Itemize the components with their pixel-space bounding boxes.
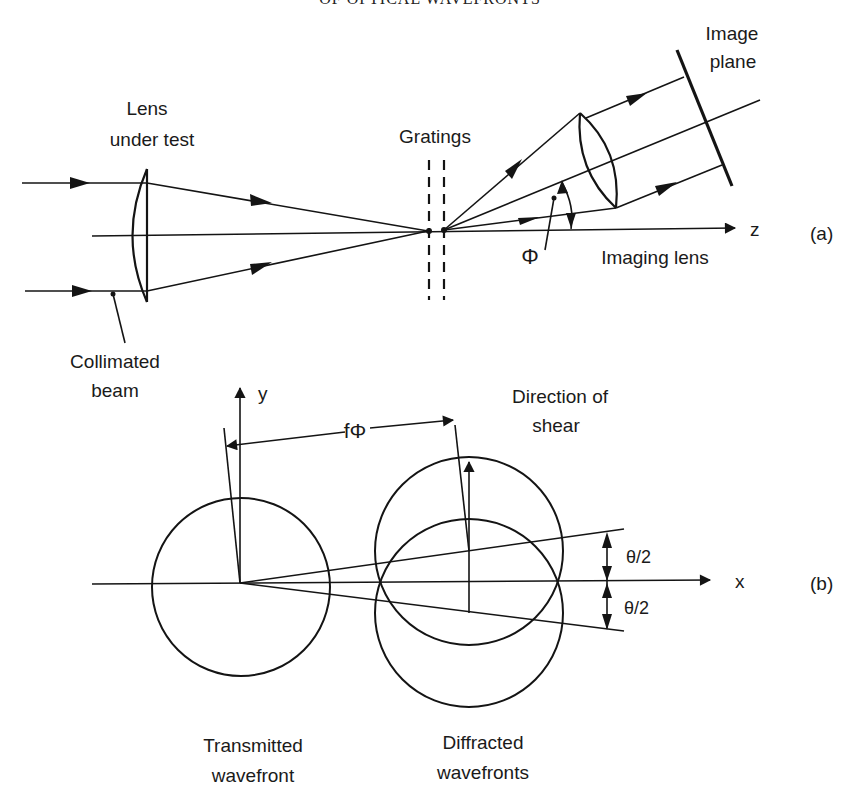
image-plane-label-2: plane (710, 51, 757, 72)
arrow-icon (602, 614, 612, 630)
arrow-icon (250, 262, 272, 275)
focus-point-1 (426, 228, 432, 234)
lens-under-test-label-2: under test (110, 129, 195, 150)
gratings-label: Gratings (399, 126, 471, 147)
lens-under-test-label-1: Lens (126, 98, 167, 119)
imaging-lens-left (579, 113, 616, 208)
part-b: x (b) y fΦ Direction of shear θ/2 θ/2 (92, 383, 833, 786)
panel-label-b: (b) (810, 573, 833, 594)
collimated-beam-label-1: Collimated (70, 351, 160, 372)
part-a: z (a) Lens under test Collimated beam Gr… (22, 23, 833, 401)
converging-ray-top (147, 183, 428, 231)
f-phi-label: fΦ (344, 419, 367, 442)
theta-ray-lower (240, 583, 624, 631)
converging-ray-bottom (147, 231, 428, 291)
arrow-icon (626, 93, 647, 106)
arrow-icon (602, 532, 612, 548)
diffracted-label-1: Diffracted (443, 732, 524, 753)
theta-ray-upper (240, 529, 624, 583)
image-plane-label-1: Image (706, 23, 759, 44)
optical-shearing-diagram: OF OPTICAL WAVEFRONTS z (a) Lens under t… (0, 0, 863, 811)
tilted-reference-left (224, 428, 240, 583)
transmitted-label-2: wavefront (211, 765, 295, 786)
collimated-beam-pointer (113, 294, 125, 343)
arrow-icon (70, 177, 90, 189)
panel-label-a: (a) (810, 223, 833, 244)
f-phi-arrow-right (370, 420, 453, 428)
collimated-beam-label-2: beam (91, 380, 139, 401)
direction-of-shear-label-1: Direction of (512, 386, 609, 407)
x-axis-label: x (735, 571, 745, 592)
phi-pointer (545, 198, 554, 250)
phi-label: Φ (521, 244, 539, 269)
diffracted-label-2: wavefronts (436, 762, 529, 783)
arrow-icon (655, 182, 677, 196)
arrow-icon (518, 217, 540, 225)
transmitted-label-1: Transmitted (203, 735, 303, 756)
arrow-icon (602, 566, 612, 581)
arrow-icon (566, 213, 576, 228)
z-axis-label: z (750, 219, 760, 240)
theta-half-lower-label: θ/2 (624, 598, 649, 618)
y-axis-label: y (258, 383, 268, 404)
transmitted-wavefront-circle (152, 498, 330, 676)
imaging-lens-label: Imaging lens (601, 247, 709, 268)
arrow-icon (72, 285, 92, 297)
arrow-icon (602, 583, 612, 598)
theta-half-upper-label: θ/2 (626, 547, 651, 567)
page-header: OF OPTICAL WAVEFRONTS (319, 0, 541, 7)
f-phi-arrow-left (227, 432, 345, 446)
tilted-reference-right (455, 425, 469, 551)
direction-of-shear-label-2: shear (532, 415, 580, 436)
x-axis-line (92, 580, 710, 584)
